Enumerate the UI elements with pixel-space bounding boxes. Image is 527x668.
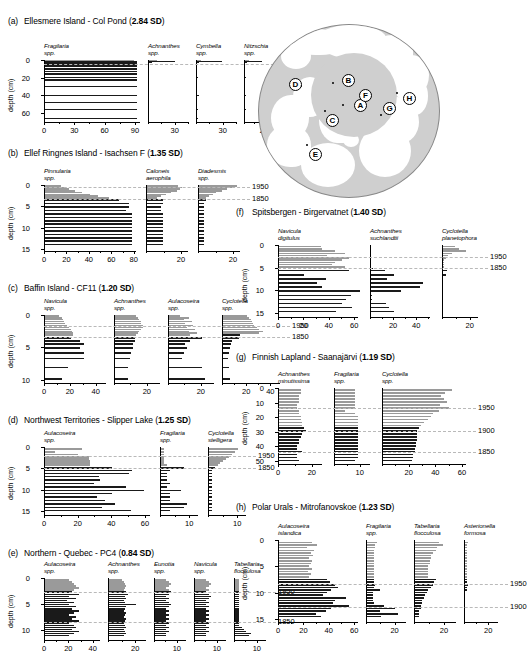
y-tick-label: 10 <box>14 626 30 635</box>
stratigraphic-bar <box>279 299 346 301</box>
stratigraphic-bar <box>115 347 133 349</box>
site-label-E[interactable]: E <box>309 148 322 161</box>
stratigraphic-bar <box>45 334 73 336</box>
x-tick-label: 10 <box>227 519 247 528</box>
stratigraphic-bar <box>197 118 198 120</box>
y-tick-label: 5 <box>14 202 30 211</box>
arctic-ocean <box>311 53 397 137</box>
stratigraphic-bar <box>335 419 358 421</box>
stratigraphic-bar <box>45 464 90 466</box>
stratigraphic-bar <box>169 367 202 369</box>
site-label-D[interactable]: D <box>289 78 302 91</box>
stratigraphic-bar <box>45 343 84 345</box>
x-minor-tick <box>130 383 131 385</box>
column-axis-line <box>196 60 197 122</box>
stratigraphic-bar <box>279 547 307 549</box>
panel-title-paren: ) <box>188 415 191 425</box>
stratigraphic-bar <box>367 587 374 589</box>
stratigraphic-bar <box>245 77 246 79</box>
y-tick-mark <box>275 290 278 291</box>
site-label-B[interactable]: B <box>342 74 355 87</box>
stratigraphic-bar <box>279 571 308 573</box>
y-tick-mark <box>275 593 278 594</box>
site-label-F[interactable]: F <box>359 89 372 102</box>
x-axis-line <box>196 122 236 123</box>
site-label-H[interactable]: H <box>403 92 416 105</box>
stratigraphic-bar <box>383 442 416 444</box>
stratigraphic-bar <box>279 303 342 305</box>
x-tick-label: 30 <box>165 126 185 135</box>
x-minor-tick <box>44 251 45 253</box>
x-minor-tick <box>312 464 313 466</box>
stratigraphic-bar <box>465 579 467 581</box>
x-minor-tick <box>223 515 224 517</box>
taxon-label: Aulacoseiraislandica <box>278 523 309 536</box>
stratigraphic-bar <box>279 270 349 272</box>
x-tick-label: 20 <box>302 468 322 477</box>
y-tick-mark <box>41 347 44 348</box>
y-tick-label: 15 <box>248 309 264 318</box>
year-label: 1850 <box>478 447 495 456</box>
x-minor-tick <box>44 640 45 642</box>
stratigraphic-bar <box>367 552 374 554</box>
x-minor-tick <box>44 122 45 124</box>
stratigraphic-bar <box>45 220 133 222</box>
x-tick-label: 60 <box>95 126 115 135</box>
stratigraphic-bar <box>195 635 206 637</box>
stratigraphic-bar <box>383 460 412 462</box>
y-tick-mark <box>275 245 278 246</box>
stratigraphic-bar <box>335 404 356 406</box>
y-tick-mark <box>41 60 44 61</box>
stratigraphic-bar <box>383 398 444 400</box>
stratigraphic-bar <box>199 203 204 205</box>
stratigraphic-bar <box>45 448 82 450</box>
stratigraphic-bar <box>45 479 101 481</box>
stratigraphic-bar <box>383 433 418 435</box>
stratigraphic-bar <box>115 378 128 380</box>
x-minor-tick <box>61 515 62 517</box>
y-tick-label: 0 <box>248 384 264 393</box>
stratigraphic-bar <box>415 589 429 591</box>
x-minor-tick <box>278 464 279 466</box>
stratigraphic-bar <box>169 343 185 345</box>
x-minor-tick <box>96 383 97 385</box>
x-minor-tick <box>205 640 206 642</box>
stratigraphic-bar <box>383 419 428 421</box>
y-tick-label: 5 <box>248 562 264 571</box>
x-minor-tick <box>380 622 381 624</box>
stratigraphic-bar <box>45 507 102 509</box>
x-minor-tick <box>111 515 112 517</box>
stratigraphic-bar <box>383 422 424 424</box>
stratigraphic-bar <box>45 109 137 111</box>
site-label-C[interactable]: C <box>326 114 339 127</box>
column-axis-line <box>148 60 149 122</box>
stratigraphic-bar <box>223 347 230 349</box>
stratigraphic-bar <box>147 203 163 205</box>
stratigraphic-bar <box>415 602 423 604</box>
stratigraphic-bar <box>279 602 334 604</box>
stratigraphic-bar <box>465 547 467 549</box>
x-tick-label: 0 <box>34 255 54 264</box>
x-minor-tick <box>278 317 279 319</box>
site-label-G[interactable]: G <box>383 102 396 115</box>
stratigraphic-bar <box>465 571 467 573</box>
y-tick-mark <box>41 249 44 250</box>
year-marker-line <box>278 408 476 409</box>
x-tick-label: 60 <box>452 468 472 477</box>
y-tick-label: 20 <box>14 74 30 83</box>
stratigraphic-bar <box>367 613 398 615</box>
stratigraphic-bar <box>279 290 360 292</box>
x-tick-label: 40 <box>406 321 426 330</box>
stratigraphic-bar <box>199 217 204 219</box>
stratigraphic-bar <box>279 579 327 581</box>
stratigraphic-bar <box>279 613 316 615</box>
x-minor-tick <box>395 464 396 466</box>
stratigraphic-bar <box>415 560 430 562</box>
x-minor-tick <box>55 251 56 253</box>
stratigraphic-bar <box>45 86 137 88</box>
stratigraphic-bar <box>335 433 358 435</box>
x-minor-tick <box>168 383 169 385</box>
stratigraphic-bar <box>45 213 133 215</box>
stratigraphic-bar <box>279 544 317 546</box>
